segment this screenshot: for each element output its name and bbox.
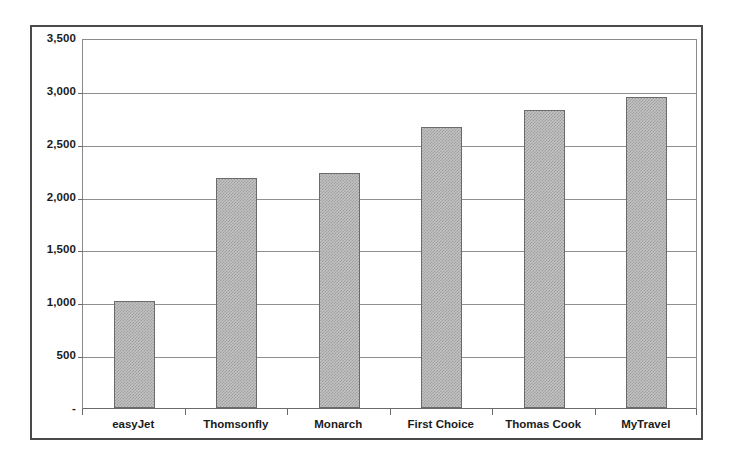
bar-easyjet[interactable] [114,301,155,408]
y-tick-label-500: 500 [30,350,76,362]
x-tick-mark-6 [696,409,697,415]
y-axis: 3,500 3,000 2,500 2,000 1,500 1,000 500 … [32,39,76,409]
x-tick-label-mytravel: MyTravel [621,418,670,431]
x-tick-mark-0 [82,409,83,415]
y-tick-label-2500: 2,500 [30,139,76,151]
y-tick-label-1500: 1,500 [30,245,76,257]
x-axis: easyJetThomsonflyMonarchFirst ChoiceThom… [82,418,697,438]
bar-chart-figure: 3,500 3,000 2,500 2,000 1,500 1,000 500 … [0,0,730,467]
plot-area [82,39,697,409]
x-tick-label-monarch: Monarch [314,418,362,431]
y-tick-label-2000: 2,000 [30,192,76,204]
bars-layer [83,40,696,408]
y-tick-label-0: - [30,403,76,415]
x-tick-label-easyjet: easyJet [112,418,154,431]
x-tick-label-thomsonfly: Thomsonfly [203,418,268,431]
y-tick-label-3500: 3,500 [30,33,76,45]
x-tick-mark-1 [185,409,186,415]
x-tick-mark-5 [595,409,596,415]
bar-mytravel[interactable] [626,97,667,408]
bar-monarch[interactable] [319,173,360,408]
x-tick-label-first-choice: First Choice [408,418,474,431]
x-tick-label-thomas-cook: Thomas Cook [505,418,581,431]
y-tick-label-3000: 3,000 [30,86,76,98]
x-tick-mark-4 [492,409,493,415]
chart-outer-frame: 3,500 3,000 2,500 2,000 1,500 1,000 500 … [30,25,703,440]
bar-thomas-cook[interactable] [524,110,565,408]
y-tick-label-1000: 1,000 [30,298,76,310]
bar-thomsonfly[interactable] [216,178,257,408]
bar-first-choice[interactable] [421,127,462,408]
x-axis-ticks [82,409,697,416]
x-tick-mark-2 [287,409,288,415]
x-tick-mark-3 [390,409,391,415]
